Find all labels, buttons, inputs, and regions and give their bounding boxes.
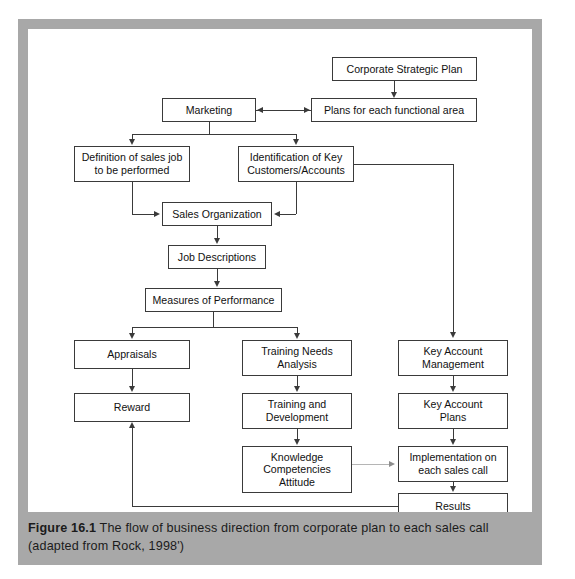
node-label: Implementation on each sales call (409, 451, 496, 476)
node-reward: Reward (74, 393, 190, 422)
caption-line-1: The flow of business direction from corp… (96, 521, 488, 535)
node-label: Reward (114, 401, 151, 414)
node-plans-functional-area: Plans for each functional area (311, 98, 477, 122)
edge-results-feedback-bottom (132, 506, 398, 507)
caption-line-2: (adapted from Rock, 1998') (28, 539, 184, 553)
node-training-and-development: Training and Development (242, 393, 352, 429)
edge-marketing-branch-bar (132, 134, 296, 135)
node-label: Job Descriptions (178, 251, 256, 264)
node-sales-organization: Sales Organization (162, 202, 272, 226)
arrowhead-appraisals-to-reward (129, 386, 135, 392)
arrowhead-trainingdev-to-knowledge (294, 439, 300, 445)
edge-definition-to-salesorg (132, 214, 155, 215)
node-label: Plans for each functional area (324, 104, 464, 117)
arrowhead-implementation-to-results (450, 486, 456, 492)
node-job-descriptions: Job Descriptions (168, 245, 266, 269)
arrowhead-measures-to-appraisals (129, 333, 135, 339)
node-label: Results (435, 500, 470, 512)
arrowhead-identification-to-kam (450, 332, 456, 338)
arrowhead-jobdesc-to-measures (214, 281, 220, 287)
node-label: Corporate Strategic Plan (346, 63, 462, 76)
arrowhead-knowledge-to-implementation (389, 461, 395, 467)
arrowhead-marketing-to-identification (293, 139, 299, 145)
figure-root: Corporate Strategic Plan Plans for each … (0, 0, 575, 579)
node-label: Definition of sales job to be performed (82, 151, 183, 176)
arrowhead-kam-to-kap (450, 386, 456, 392)
arrowhead-plans-to-marketing (257, 107, 263, 113)
edge-measures-stem (213, 312, 214, 327)
node-appraisals: Appraisals (74, 340, 190, 369)
node-label: Marketing (186, 104, 233, 117)
edge-marketing-plans (256, 110, 311, 111)
node-key-account-plans: Key Account Plans (398, 393, 508, 429)
node-label: Training and Development (266, 398, 328, 423)
node-training-needs-analysis: Training Needs Analysis (242, 340, 352, 376)
diagram-canvas: Corporate Strategic Plan Plans for each … (28, 29, 532, 512)
node-label: Knowledge Competencies Attitude (263, 451, 331, 489)
node-label: Sales Organization (172, 208, 262, 221)
edge-marketing-stem (209, 122, 210, 134)
edge-knowledge-to-implementation (352, 464, 390, 465)
node-definition-sales-job: Definition of sales job to be performed (74, 146, 190, 182)
figure-frame: Corporate Strategic Plan Plans for each … (18, 19, 542, 565)
edge-definition-down (132, 182, 133, 214)
node-results: Results (398, 493, 508, 512)
node-corporate-strategic-plan: Corporate Strategic Plan (332, 57, 477, 81)
arrowhead-salesorg-to-jobdesc (214, 238, 220, 244)
caption-label: Figure 16.1 (28, 521, 96, 535)
arrowhead-definition-to-salesorg (154, 211, 160, 217)
node-label: Appraisals (107, 348, 156, 361)
node-label: Key Account Plans (424, 398, 483, 423)
node-implementation-each-sales-call: Implementation on each sales call (398, 446, 508, 482)
edge-identification-to-salesorg (280, 214, 296, 215)
edge-appraisals-to-reward (132, 369, 133, 387)
node-measures-of-performance: Measures of Performance (145, 288, 282, 312)
edge-identification-down-to-kam (453, 164, 454, 332)
edge-measures-branch-bar (132, 327, 297, 328)
node-marketing: Marketing (162, 98, 256, 122)
figure-caption: Figure 16.1 The flow of business directi… (28, 519, 528, 561)
arrowhead-identification-to-salesorg (274, 211, 280, 217)
node-label: Training Needs Analysis (261, 345, 332, 370)
node-key-account-management: Key Account Management (398, 340, 508, 376)
node-label: Identification of Key Customers/Accounts (247, 151, 345, 176)
node-label: Measures of Performance (153, 294, 275, 307)
edge-identification-down (296, 182, 297, 214)
arrowhead-measures-to-training-needs (294, 333, 300, 339)
arrowhead-kap-to-implementation (450, 439, 456, 445)
arrowhead-marketing-to-definition (129, 139, 135, 145)
node-knowledge-competencies-attitude: Knowledge Competencies Attitude (242, 446, 352, 493)
arrowhead-results-to-reward (129, 422, 135, 428)
node-label: Key Account Management (422, 345, 484, 370)
node-identification-key-customers: Identification of Key Customers/Accounts (238, 146, 354, 182)
edge-identification-right (354, 164, 453, 165)
arrowhead-marketing-to-plans (304, 107, 310, 113)
edge-results-feedback-up (132, 428, 133, 506)
arrowhead-trainingneeds-to-trainingdev (294, 386, 300, 392)
